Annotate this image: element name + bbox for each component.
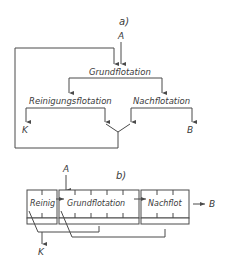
output-k-label: K xyxy=(22,125,29,135)
grundflotation-cell-label: Grundflotation xyxy=(67,199,125,208)
grundflotation-label: Grundflotation xyxy=(89,67,151,77)
reinig-cell-base xyxy=(27,218,57,224)
merge-junction xyxy=(106,124,130,132)
diagram-svg: a) A Grundflotation Reinigungsflotation … xyxy=(0,0,230,267)
flotation-diagram: a) A Grundflotation Reinigungsflotation … xyxy=(0,0,230,267)
input-b-label: A xyxy=(62,164,69,174)
nachflotation-label: Nachflotation xyxy=(133,96,190,106)
reinigungsflotation-label: Reinigungsflotation xyxy=(29,96,112,106)
output-k-label-b: K xyxy=(38,247,45,257)
diagram-a-label: a) xyxy=(119,16,129,27)
diagram-b-label: b) xyxy=(116,170,126,181)
diagram-a: a) A Grundflotation Reinigungsflotation … xyxy=(15,16,193,148)
output-b-label-b: B xyxy=(209,199,215,209)
diagram-b: b) A Reinig Grundflotation Nachflot xyxy=(27,164,215,257)
reinig-label: Reinig xyxy=(30,199,55,208)
output-b-label: B xyxy=(187,125,193,135)
recycle-arrow xyxy=(15,48,114,64)
nachflot-label: Nachflot xyxy=(148,199,182,208)
input-a-label: A xyxy=(117,31,124,41)
grundflotation-cell-base xyxy=(59,218,139,224)
nachflot-cell-base xyxy=(141,218,189,224)
